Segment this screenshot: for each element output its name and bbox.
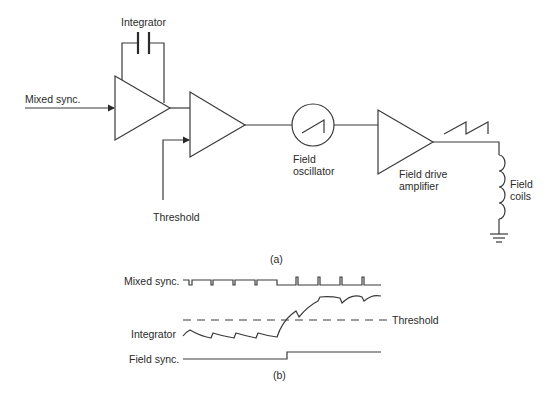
- mixed-sync-input-label: Mixed sync.: [25, 93, 80, 105]
- waveform-label-field-sync: Field sync.: [129, 353, 179, 365]
- field-oscillator-label: Field oscillator: [293, 153, 334, 177]
- field-oscillator-circle: [292, 104, 334, 146]
- threshold-input-label: Threshold: [153, 211, 200, 223]
- waveform-label-integrator: Integrator: [131, 328, 176, 340]
- integrator-amplifier: [115, 76, 170, 140]
- field-coils-label: Field coils: [510, 178, 533, 202]
- comparator-amplifier: [190, 92, 245, 157]
- caption-a: (a): [270, 253, 283, 265]
- capacitor-right-lead: [149, 43, 164, 103]
- diagram-canvas: [0, 0, 558, 400]
- threshold-arrow: [163, 140, 189, 200]
- output-sawtooth: [444, 122, 488, 134]
- waveform-label-threshold: Threshold: [392, 314, 439, 326]
- integrator-waveform: [183, 296, 381, 338]
- mixed-sync-waveform: [183, 277, 381, 285]
- field-drive-amplifier: [378, 110, 433, 174]
- caption-b: (b): [273, 369, 286, 381]
- field-sync-waveform: [183, 352, 381, 359]
- inductor-coils: [499, 155, 505, 219]
- wire-amplifier-coils: [433, 142, 499, 155]
- integrator-label: Integrator: [121, 16, 166, 28]
- field-drive-amplifier-label: Field drive amplifier: [399, 168, 447, 192]
- capacitor-left-lead: [122, 43, 138, 80]
- waveform-label-mixed-sync: Mixed sync.: [124, 275, 179, 287]
- sawtooth-icon: [302, 120, 324, 133]
